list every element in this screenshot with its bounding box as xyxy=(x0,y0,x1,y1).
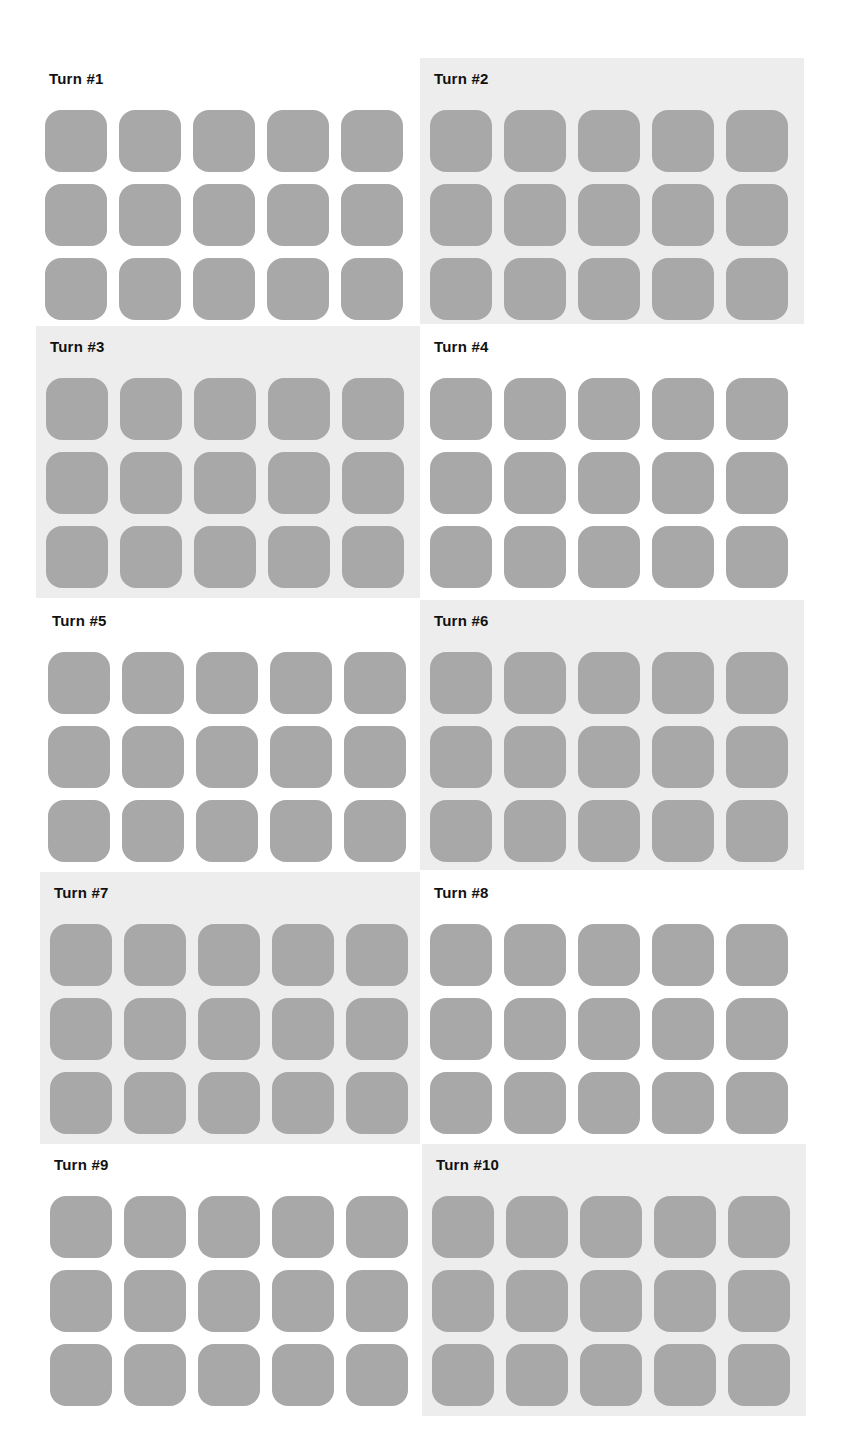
card-tile[interactable] xyxy=(430,258,492,320)
card-tile[interactable] xyxy=(580,1344,642,1406)
card-tile[interactable] xyxy=(270,800,332,862)
card-tile[interactable] xyxy=(124,1270,186,1332)
card-tile[interactable] xyxy=(430,452,492,514)
card-tile[interactable] xyxy=(268,526,330,588)
card-tile[interactable] xyxy=(45,110,107,172)
card-tile[interactable] xyxy=(272,1270,334,1332)
card-tile[interactable] xyxy=(578,924,640,986)
card-tile[interactable] xyxy=(654,1270,716,1332)
card-tile[interactable] xyxy=(198,1270,260,1332)
card-tile[interactable] xyxy=(726,526,788,588)
card-tile[interactable] xyxy=(119,110,181,172)
card-tile[interactable] xyxy=(270,726,332,788)
card-tile[interactable] xyxy=(196,652,258,714)
card-tile[interactable] xyxy=(45,258,107,320)
card-tile[interactable] xyxy=(578,452,640,514)
card-tile[interactable] xyxy=(652,726,714,788)
card-tile[interactable] xyxy=(578,800,640,862)
card-tile[interactable] xyxy=(346,1344,408,1406)
card-tile[interactable] xyxy=(45,184,107,246)
card-tile[interactable] xyxy=(46,452,108,514)
card-tile[interactable] xyxy=(196,800,258,862)
card-tile[interactable] xyxy=(344,800,406,862)
card-tile[interactable] xyxy=(122,652,184,714)
card-tile[interactable] xyxy=(504,258,566,320)
card-tile[interactable] xyxy=(342,378,404,440)
card-tile[interactable] xyxy=(430,726,492,788)
card-tile[interactable] xyxy=(430,378,492,440)
card-tile[interactable] xyxy=(346,1270,408,1332)
card-tile[interactable] xyxy=(430,526,492,588)
card-tile[interactable] xyxy=(120,378,182,440)
card-tile[interactable] xyxy=(46,526,108,588)
card-tile[interactable] xyxy=(272,924,334,986)
card-tile[interactable] xyxy=(270,652,332,714)
card-tile[interactable] xyxy=(726,452,788,514)
card-tile[interactable] xyxy=(193,184,255,246)
card-tile[interactable] xyxy=(430,800,492,862)
card-tile[interactable] xyxy=(344,726,406,788)
card-tile[interactable] xyxy=(504,110,566,172)
card-tile[interactable] xyxy=(341,184,403,246)
card-tile[interactable] xyxy=(124,1196,186,1258)
card-tile[interactable] xyxy=(50,1344,112,1406)
card-tile[interactable] xyxy=(194,526,256,588)
card-tile[interactable] xyxy=(652,526,714,588)
card-tile[interactable] xyxy=(50,1196,112,1258)
card-tile[interactable] xyxy=(504,998,566,1060)
card-tile[interactable] xyxy=(506,1196,568,1258)
card-tile[interactable] xyxy=(50,998,112,1060)
card-tile[interactable] xyxy=(50,1072,112,1134)
card-tile[interactable] xyxy=(580,1196,642,1258)
card-tile[interactable] xyxy=(652,452,714,514)
card-tile[interactable] xyxy=(726,924,788,986)
card-tile[interactable] xyxy=(430,998,492,1060)
card-tile[interactable] xyxy=(50,1270,112,1332)
card-tile[interactable] xyxy=(196,726,258,788)
card-tile[interactable] xyxy=(344,652,406,714)
card-tile[interactable] xyxy=(120,452,182,514)
card-tile[interactable] xyxy=(194,452,256,514)
card-tile[interactable] xyxy=(119,258,181,320)
card-tile[interactable] xyxy=(654,1196,716,1258)
card-tile[interactable] xyxy=(198,924,260,986)
card-tile[interactable] xyxy=(193,110,255,172)
card-tile[interactable] xyxy=(341,258,403,320)
card-tile[interactable] xyxy=(504,652,566,714)
card-tile[interactable] xyxy=(124,1072,186,1134)
card-tile[interactable] xyxy=(198,998,260,1060)
card-tile[interactable] xyxy=(430,184,492,246)
card-tile[interactable] xyxy=(46,378,108,440)
card-tile[interactable] xyxy=(726,110,788,172)
card-tile[interactable] xyxy=(726,726,788,788)
card-tile[interactable] xyxy=(346,1196,408,1258)
card-tile[interactable] xyxy=(726,1072,788,1134)
card-tile[interactable] xyxy=(652,1072,714,1134)
card-tile[interactable] xyxy=(430,110,492,172)
card-tile[interactable] xyxy=(578,258,640,320)
card-tile[interactable] xyxy=(198,1072,260,1134)
card-tile[interactable] xyxy=(122,800,184,862)
card-tile[interactable] xyxy=(654,1344,716,1406)
card-tile[interactable] xyxy=(346,1072,408,1134)
card-tile[interactable] xyxy=(504,526,566,588)
card-tile[interactable] xyxy=(504,1072,566,1134)
card-tile[interactable] xyxy=(504,378,566,440)
card-tile[interactable] xyxy=(652,184,714,246)
card-tile[interactable] xyxy=(341,110,403,172)
card-tile[interactable] xyxy=(728,1196,790,1258)
card-tile[interactable] xyxy=(432,1344,494,1406)
card-tile[interactable] xyxy=(506,1270,568,1332)
card-tile[interactable] xyxy=(120,526,182,588)
card-tile[interactable] xyxy=(124,924,186,986)
card-tile[interactable] xyxy=(728,1344,790,1406)
card-tile[interactable] xyxy=(578,998,640,1060)
card-tile[interactable] xyxy=(124,998,186,1060)
card-tile[interactable] xyxy=(272,998,334,1060)
card-tile[interactable] xyxy=(504,800,566,862)
card-tile[interactable] xyxy=(652,378,714,440)
card-tile[interactable] xyxy=(652,998,714,1060)
card-tile[interactable] xyxy=(48,800,110,862)
card-tile[interactable] xyxy=(504,452,566,514)
card-tile[interactable] xyxy=(267,110,329,172)
